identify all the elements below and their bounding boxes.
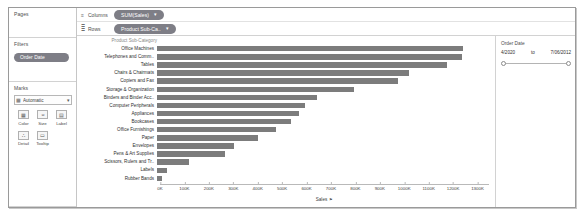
marks-button-label[interactable]: ▤ Label (52, 110, 71, 126)
bar-row-label[interactable]: Envelopes (77, 143, 157, 149)
bar[interactable] (157, 87, 354, 92)
shelf-zone: ≡ Columns SUM(Sales) ▾ ≣ Rows Product Su… (77, 8, 575, 36)
columns-shelf[interactable]: ≡ Columns SUM(Sales) ▾ (77, 8, 575, 22)
bar[interactable] (157, 62, 447, 67)
filters-card-dropzone[interactable]: Order Date (14, 48, 72, 66)
bar[interactable] (157, 176, 162, 181)
pill-sum-sales-label: SUM(Sales) (121, 10, 149, 20)
bar-row-label[interactable]: Scissors, Rulers and Tr.. (77, 159, 157, 165)
bar-track (157, 158, 495, 166)
worksheet-canvas: Product Sub-Category Office MachinesTele… (77, 36, 575, 207)
bar-track (157, 134, 495, 142)
marks-button-color[interactable]: ▦ Color (14, 110, 33, 126)
marks-card-title: Marks (14, 85, 72, 92)
bar-row-label[interactable]: Binders and Binder Acc.. (77, 95, 157, 101)
filter-pill-order-date[interactable]: Order Date (14, 53, 69, 62)
rows-shelf-label: Rows (88, 26, 114, 32)
slider-handle-right[interactable] (566, 61, 571, 66)
marks-button-size[interactable]: ⦵ Size (33, 110, 52, 126)
x-axis-title[interactable]: Sales⚑ (160, 197, 489, 203)
bar[interactable] (157, 70, 409, 75)
bar-row: Paper (77, 134, 495, 142)
columns-icon: ≡ (81, 12, 88, 18)
sort-descending-icon[interactable]: ⚑ (329, 197, 333, 202)
pages-card-dropzone[interactable] (14, 18, 72, 32)
bar-row-label[interactable]: Office Machines (77, 46, 157, 52)
x-axis-tick: 1200K (447, 185, 460, 192)
slider-handle-left[interactable] (501, 61, 506, 66)
bar-track (157, 77, 495, 85)
x-axis-title-label: Sales (316, 197, 328, 202)
filter-range-slider[interactable] (501, 60, 571, 67)
marks-button-detail-label: Detail (18, 141, 29, 146)
chevron-down-icon: ▾ (154, 10, 157, 20)
filter-date-range: 4/2020 to 7/06/2012 (501, 50, 571, 56)
bar[interactable] (157, 95, 317, 100)
bar-row: Rubber Bands (77, 175, 495, 183)
bar-track (157, 102, 495, 110)
bar-track (157, 85, 495, 93)
x-axis-tick: 100K (179, 185, 189, 192)
mark-type-dropdown[interactable]: ▩ Automatic ▾ (14, 95, 72, 105)
bar[interactable] (157, 135, 258, 140)
bar-row-label[interactable]: Office Furnishings (77, 127, 157, 133)
bar[interactable] (157, 46, 463, 51)
bar[interactable] (157, 159, 189, 164)
bar-row-label[interactable]: Copiers and Fax (77, 78, 157, 84)
x-axis-tick: 300K (228, 185, 238, 192)
detail-icon: ∴ (18, 131, 29, 140)
x-axis-tick: 1100K (422, 185, 434, 192)
size-icon: ⦵ (37, 110, 48, 119)
bar-row: Binders and Binder Acc.. (77, 94, 495, 102)
x-axis-tick: 700K (326, 185, 336, 192)
filter-range-to: to (531, 50, 535, 56)
bar-row: Office Machines (77, 45, 495, 53)
bar-row-label[interactable]: Bookcases (77, 119, 157, 125)
pages-card-title: Pages (14, 11, 72, 18)
bar-row-label[interactable]: Computer Peripherals (77, 103, 157, 109)
bar-row-label[interactable]: Rubber Bands (77, 176, 157, 182)
bar[interactable] (157, 78, 398, 83)
x-axis-tick: 600K (301, 185, 311, 192)
viz-region[interactable]: Product Sub-Category Office MachinesTele… (77, 36, 495, 207)
bar-track (157, 126, 495, 134)
bar-row: Storage & Organization (77, 85, 495, 93)
bar-row-label[interactable]: Storage & Organization (77, 87, 157, 93)
filter-range-end: 7/06/2012 (551, 50, 571, 56)
marks-button-tooltip[interactable]: ▭ Tooltip (33, 131, 52, 147)
bar-row: Appliances (77, 110, 495, 118)
bar-row-label[interactable]: Telephones and Comm.. (77, 54, 157, 60)
bar-track (157, 166, 495, 174)
marks-button-detail[interactable]: ∴ Detail (14, 131, 33, 147)
marks-buttons-group: ▦ Color ⦵ Size ▤ Label ∴ Detail ▭ Tool (14, 110, 72, 151)
bar-row-label[interactable]: Appliances (77, 111, 157, 117)
bar[interactable] (157, 168, 167, 173)
bar-row: Computer Peripherals (77, 102, 495, 110)
marks-button-label-label: Label (56, 121, 67, 126)
bar[interactable] (157, 143, 234, 148)
bar-track (157, 69, 495, 77)
bar-row: Pens & Art Supplies (77, 150, 495, 158)
pill-sum-sales[interactable]: SUM(Sales) ▾ (114, 10, 164, 20)
rows-shelf[interactable]: ≣ Rows Product Sub-Ca.. ▾ (77, 22, 575, 35)
x-axis-tick: 500K (277, 185, 287, 192)
bar-row-label[interactable]: Chairs & Chairmats (77, 70, 157, 76)
bar[interactable] (157, 127, 276, 132)
bar-row-label[interactable]: Pens & Art Supplies (77, 151, 157, 157)
pill-product-sub-category[interactable]: Product Sub-Ca.. ▾ (114, 24, 176, 34)
bar[interactable] (157, 111, 299, 116)
slider-track (503, 63, 569, 64)
bar[interactable] (157, 151, 225, 156)
bar-row-label[interactable]: Labels (77, 167, 157, 173)
color-icon: ▦ (18, 110, 29, 119)
bar[interactable] (157, 54, 462, 59)
bar[interactable] (157, 103, 305, 108)
x-axis-tick: 0K (157, 185, 162, 192)
bar-row: Envelopes (77, 142, 495, 150)
tableau-worksheet-window: Pages Filters Order Date Marks ▩ Automat… (8, 7, 576, 208)
bar-row-label[interactable]: Paper (77, 135, 157, 141)
bar[interactable] (157, 119, 291, 124)
bar-row-label[interactable]: Tables (77, 62, 157, 68)
bar-track (157, 61, 495, 69)
bar-row: Copiers and Fax (77, 77, 495, 85)
